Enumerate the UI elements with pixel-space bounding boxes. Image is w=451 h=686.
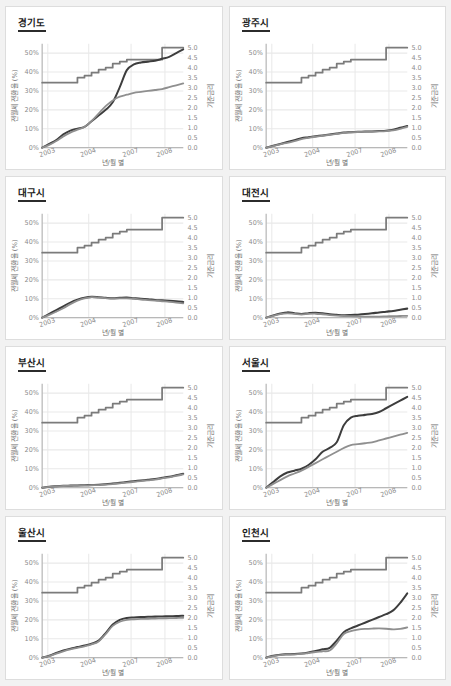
y-axis-right-tick: 5.0	[411, 44, 421, 52]
y-axis-right-tick: 0.0	[187, 484, 197, 492]
y-axis-right-tick: 4.0	[187, 404, 197, 412]
x-axis-label: 년/월 별	[102, 158, 124, 167]
y-axis-left-tick: 40%	[248, 578, 262, 586]
y-axis-right-label: 기준금리	[430, 593, 439, 617]
y-axis-left-tick: 30%	[25, 597, 39, 605]
y-axis-left-tick: 30%	[248, 87, 262, 95]
y-axis-right-tick: 1.0	[187, 294, 197, 302]
y-axis-right-tick: 3.5	[187, 584, 197, 592]
y-axis-right-label: 기준금리	[206, 423, 215, 447]
plot-area: 0%10%20%30%40%50%0.00.51.01.52.02.53.03.…	[10, 204, 218, 337]
y-axis-right-tick: 4.0	[187, 574, 197, 582]
y-axis-right-tick: 1.5	[411, 284, 421, 292]
plot-area: 0%10%20%30%40%50%0.00.51.01.52.02.53.03.…	[234, 34, 442, 167]
y-axis-left-tick: 50%	[25, 219, 39, 227]
y-axis-right-tick: 5.0	[187, 554, 197, 562]
panel-title: 부산시	[18, 357, 218, 368]
y-axis-left-tick: 30%	[25, 257, 39, 265]
y-axis-right-tick: 1.0	[187, 124, 197, 132]
y-axis-right-tick: 3.0	[187, 594, 197, 602]
y-axis-right-tick: 0.5	[411, 644, 421, 652]
y-axis-right-tick: 4.5	[187, 54, 197, 62]
plot-area: 0%10%20%30%40%50%0.00.51.01.52.02.53.03.…	[234, 544, 442, 677]
x-axis-label: 년/월 별	[325, 498, 347, 507]
y-axis-left-tick: 20%	[248, 106, 262, 114]
title-underline	[18, 370, 46, 372]
y-axis-left-tick: 40%	[25, 408, 39, 416]
x-axis-tick: 2003	[38, 146, 56, 159]
chart-panel: 경기도0%10%20%30%40%50%0.00.51.01.52.02.53.…	[5, 6, 223, 170]
y-axis-right-tick: 2.0	[187, 104, 197, 112]
y-axis-right-tick: 3.0	[411, 254, 421, 262]
y-axis-left-tick: 10%	[25, 465, 39, 473]
y-axis-right-tick: 3.5	[411, 584, 421, 592]
plot-area: 0%10%20%30%40%50%0.00.51.01.52.02.53.03.…	[234, 204, 442, 337]
y-axis-left-tick: 40%	[248, 68, 262, 76]
plot-area: 0%10%20%30%40%50%0.00.51.01.52.02.53.03.…	[234, 374, 442, 507]
line-chart-svg: 0%10%20%30%40%50%0.00.51.01.52.02.53.03.…	[10, 204, 218, 337]
y-axis-left-tick: 40%	[25, 238, 39, 246]
x-axis-tick: 2003	[38, 656, 56, 669]
x-axis-tick: 2003	[262, 146, 280, 159]
y-axis-right-tick: 1.5	[411, 454, 421, 462]
panel-title: 경기도	[18, 17, 218, 28]
y-axis-right-tick: 0.0	[411, 314, 421, 322]
y-axis-right-tick: 0.0	[411, 144, 421, 152]
title-underline	[242, 30, 270, 32]
y-axis-right-tick: 2.5	[187, 264, 197, 272]
y-axis-right-tick: 2.0	[411, 444, 421, 452]
y-axis-right-tick: 4.0	[187, 64, 197, 72]
x-axis-label: 년/월 별	[102, 668, 124, 677]
x-axis-tick: 2003	[262, 316, 280, 329]
y-axis-right-tick: 1.5	[187, 114, 197, 122]
y-axis-left-tick: 30%	[248, 427, 262, 435]
y-axis-right-tick: 5.0	[411, 554, 421, 562]
y-axis-left-tick: 50%	[248, 49, 262, 57]
y-axis-left-tick: 50%	[248, 559, 262, 567]
y-axis-right-tick: 1.0	[411, 294, 421, 302]
y-axis-right-tick: 5.0	[411, 214, 421, 222]
chart-panel: 부산시0%10%20%30%40%50%0.00.51.01.52.02.53.…	[5, 346, 223, 510]
y-axis-right-label: 기준금리	[206, 83, 215, 107]
y-axis-right-tick: 3.0	[411, 594, 421, 602]
panel-title: 서울시	[242, 357, 442, 368]
y-axis-right-tick: 4.5	[411, 564, 421, 572]
y-axis-right-label: 기준금리	[430, 423, 439, 447]
plot-area: 0%10%20%30%40%50%0.00.51.01.52.02.53.03.…	[10, 34, 218, 167]
y-axis-left-tick: 20%	[25, 276, 39, 284]
y-axis-right-tick: 4.0	[411, 234, 421, 242]
y-axis-left-tick: 40%	[25, 578, 39, 586]
chart-grid: 경기도0%10%20%30%40%50%0.00.51.01.52.02.53.…	[0, 0, 451, 686]
y-axis-left-tick: 20%	[25, 446, 39, 454]
x-axis-tick: 2003	[38, 316, 56, 329]
y-axis-right-tick: 3.5	[411, 74, 421, 82]
y-axis-right-tick: 4.5	[411, 224, 421, 232]
y-axis-right-tick: 2.0	[187, 614, 197, 622]
y-axis-right-tick: 0.0	[187, 144, 197, 152]
y-axis-left-tick: 10%	[248, 635, 262, 643]
y-axis-right-tick: 0.5	[187, 474, 197, 482]
y-axis-right-tick: 0.0	[411, 654, 421, 662]
plot-area: 0%10%20%30%40%50%0.00.51.01.52.02.53.03.…	[10, 544, 218, 677]
data-series-line	[266, 397, 407, 488]
panel-title: 광주시	[242, 17, 442, 28]
y-axis-right-tick: 1.0	[411, 464, 421, 472]
y-axis-left-tick: 40%	[248, 238, 262, 246]
y-axis-right-tick: 5.0	[411, 384, 421, 392]
y-axis-right-tick: 4.5	[187, 394, 197, 402]
y-axis-right-tick: 3.5	[187, 74, 197, 82]
y-axis-left-tick: 50%	[25, 389, 39, 397]
chart-panel: 울산시0%10%20%30%40%50%0.00.51.01.52.02.53.…	[5, 516, 223, 680]
y-axis-right-tick: 0.0	[187, 654, 197, 662]
y-axis-right-tick: 3.0	[187, 84, 197, 92]
data-series-line	[42, 474, 183, 487]
y-axis-right-tick: 4.0	[411, 64, 421, 72]
title-underline	[18, 540, 46, 542]
y-axis-left-tick: 20%	[248, 276, 262, 284]
chart-panel: 광주시0%10%20%30%40%50%0.00.51.01.52.02.53.…	[229, 6, 447, 170]
y-axis-right-tick: 3.5	[187, 244, 197, 252]
y-axis-left-label: 전월세 전환율 (%)	[11, 409, 20, 462]
title-underline	[18, 30, 46, 32]
y-axis-right-label: 기준금리	[206, 593, 215, 617]
title-underline	[18, 200, 46, 202]
